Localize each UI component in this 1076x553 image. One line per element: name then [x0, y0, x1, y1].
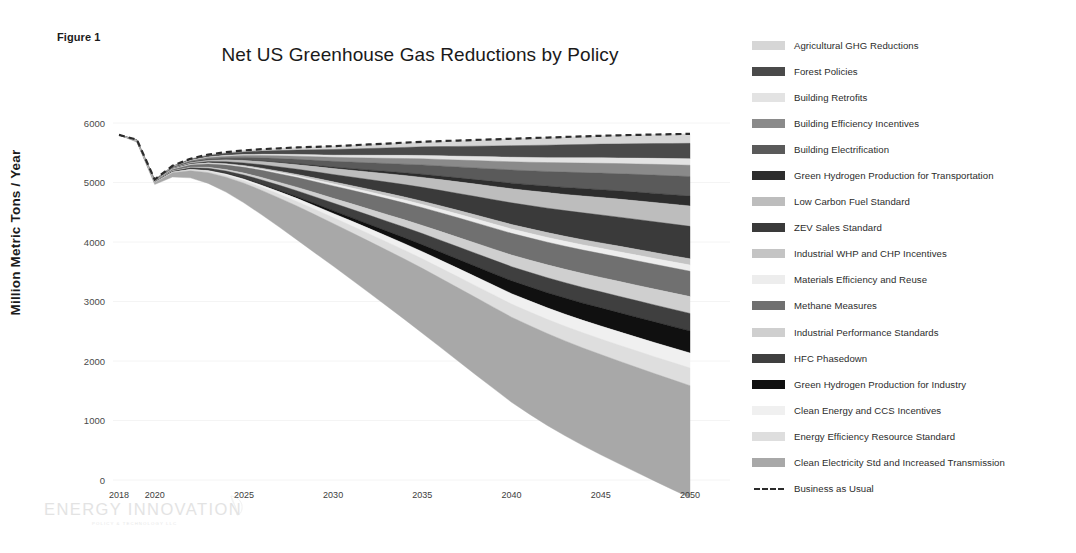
legend-color-swatch: [752, 249, 785, 258]
legend-color-swatch: [752, 328, 785, 337]
x-tick-label: 2035: [412, 490, 432, 500]
legend-item[interactable]: Building Efficiency Incentives: [752, 110, 1072, 136]
legend-color-swatch: [752, 67, 785, 76]
legend-item[interactable]: Clean Electricity Std and Increased Tran…: [752, 450, 1072, 476]
legend-item[interactable]: Low Carbon Fuel Standard: [752, 189, 1072, 215]
legend-item[interactable]: HFC Phasedown: [752, 345, 1072, 371]
legend-item-label: Business as Usual: [794, 483, 874, 494]
legend-item-label: Industrial WHP and CHP Incentives: [794, 248, 947, 259]
legend-item[interactable]: Industrial WHP and CHP Incentives: [752, 241, 1072, 267]
legend-item[interactable]: Energy Efficiency Resource Standard: [752, 423, 1072, 449]
legend-item[interactable]: Building Electrification: [752, 136, 1072, 162]
legend-item[interactable]: Methane Measures: [752, 293, 1072, 319]
legend-item[interactable]: Forest Policies: [752, 58, 1072, 84]
legend-item-label: Materials Efficiency and Reuse: [794, 274, 927, 285]
legend-item-label: Clean Electricity Std and Increased Tran…: [794, 457, 1005, 468]
legend-color-swatch: [752, 301, 785, 310]
y-tick-label: 5000: [84, 177, 105, 188]
stacked-area-chart: 0100020003000400050006000201820202025203…: [0, 0, 760, 553]
legend-item-label: Methane Measures: [794, 300, 877, 311]
legend-item-label: Green Hydrogen Production for Industry: [794, 379, 966, 390]
legend-color-swatch: [752, 406, 785, 415]
legend-item[interactable]: Building Retrofits: [752, 84, 1072, 110]
legend-color-swatch: [752, 354, 785, 363]
legend-item-label: Forest Policies: [794, 66, 858, 77]
legend-color-swatch: [752, 171, 785, 180]
y-tick-label: 0: [100, 475, 105, 486]
legend-item[interactable]: Green Hydrogen Production for Transporta…: [752, 162, 1072, 188]
legend-item[interactable]: ZEV Sales Standard: [752, 215, 1072, 241]
y-axis-ticks: 0100020003000400050006000: [84, 118, 105, 486]
legend-item-label: ZEV Sales Standard: [794, 222, 882, 233]
legend-item-label: Energy Efficiency Resource Standard: [794, 431, 955, 442]
y-tick-label: 1000: [84, 415, 105, 426]
legend-color-swatch: [752, 223, 785, 232]
legend-item[interactable]: Industrial Performance Standards: [752, 319, 1072, 345]
legend-dash-swatch: [754, 488, 784, 490]
figure-root: Figure 1 Net US Greenhouse Gas Reduction…: [0, 0, 1076, 553]
legend-item[interactable]: Agricultural GHG Reductions: [752, 32, 1072, 58]
chart-legend: Agricultural GHG ReductionsForest Polici…: [752, 32, 1072, 502]
legend-item-label: Agricultural GHG Reductions: [794, 40, 919, 51]
legend-color-swatch: [752, 41, 785, 50]
x-tick-label: 2018: [109, 490, 129, 500]
legend-item[interactable]: Materials Efficiency and Reuse: [752, 267, 1072, 293]
legend-item-label: Clean Energy and CCS Incentives: [794, 405, 941, 416]
legend-item[interactable]: Clean Energy and CCS Incentives: [752, 397, 1072, 423]
legend-item-label: Building Retrofits: [794, 92, 867, 103]
legend-item[interactable]: Green Hydrogen Production for Industry: [752, 371, 1072, 397]
area-bands: [119, 134, 690, 498]
x-tick-label: 2030: [323, 490, 343, 500]
legend-item[interactable]: Business as Usual: [752, 476, 1072, 502]
x-tick-label: 2040: [502, 490, 522, 500]
legend-item-label: HFC Phasedown: [794, 353, 867, 364]
y-tick-label: 6000: [84, 118, 105, 129]
legend-color-swatch: [752, 197, 785, 206]
y-tick-label: 3000: [84, 296, 105, 307]
legend-item-label: Building Efficiency Incentives: [794, 118, 919, 129]
legend-color-swatch: [752, 432, 785, 441]
legend-item-label: Building Electrification: [794, 144, 889, 155]
legend-color-swatch: [752, 275, 785, 284]
legend-color-swatch: [752, 93, 785, 102]
legend-item-label: Industrial Performance Standards: [794, 327, 939, 338]
y-tick-label: 4000: [84, 237, 105, 248]
legend-item-label: Low Carbon Fuel Standard: [794, 196, 910, 207]
legend-color-swatch: [752, 145, 785, 154]
x-tick-label: 2025: [234, 490, 254, 500]
x-tick-label: 2020: [145, 490, 165, 500]
x-tick-label: 2050: [680, 490, 700, 500]
legend-item-label: Green Hydrogen Production for Transporta…: [794, 170, 994, 181]
legend-color-swatch: [752, 380, 785, 389]
x-tick-label: 2045: [591, 490, 611, 500]
legend-color-swatch: [752, 458, 785, 467]
y-tick-label: 2000: [84, 356, 105, 367]
x-axis-ticks: 20182020202520302035204020452050: [109, 490, 700, 500]
legend-color-swatch: [752, 119, 785, 128]
plot-area: 0100020003000400050006000201820202025203…: [0, 0, 760, 553]
